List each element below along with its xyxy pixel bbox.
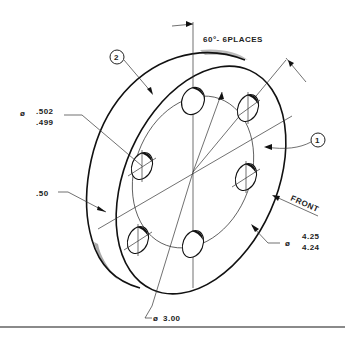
angle-arrow-right bbox=[288, 60, 294, 67]
bolt-circle-arrow bbox=[218, 92, 224, 100]
outer-dia-symbol: ø bbox=[285, 239, 290, 248]
bottom-rim-hatching bbox=[94, 242, 118, 280]
balloon-1-leader bbox=[266, 142, 311, 148]
angle-arrow-left bbox=[186, 21, 193, 27]
hole-dia-lower: .499 bbox=[36, 118, 54, 127]
hole bbox=[233, 91, 262, 124]
outer-dia-arrow bbox=[251, 224, 259, 232]
hole-dia-upper: .502 bbox=[36, 107, 54, 116]
outer-dia-upper: 4.25 bbox=[302, 232, 320, 241]
angle-note: 60°- 6PLACES bbox=[203, 35, 263, 44]
front-arrow-head bbox=[272, 195, 280, 201]
disk-back-outline bbox=[87, 53, 245, 288]
bolt-dia-leader bbox=[145, 306, 152, 318]
bottom-rule bbox=[0, 326, 345, 328]
hole bbox=[178, 227, 207, 260]
hole-dia-symbol: ø bbox=[20, 109, 25, 118]
hole bbox=[231, 160, 260, 193]
balloon-1-arrow bbox=[264, 144, 272, 150]
hole bbox=[178, 84, 209, 118]
bolt-dia-symbol: ø bbox=[153, 314, 158, 323]
outer-dia-lower: 4.24 bbox=[302, 243, 320, 252]
balloon-2-number: 2 bbox=[114, 53, 119, 62]
hole-dia-leader bbox=[64, 115, 142, 166]
front-label: FRONT bbox=[289, 194, 320, 214]
thickness-arrow bbox=[97, 206, 106, 212]
thickness-label: .50 bbox=[36, 189, 49, 198]
balloon-1-number: 1 bbox=[315, 136, 320, 145]
hole bbox=[123, 223, 152, 256]
technical-drawing: 60°- 6PLACES 2 ø .502 .499 .50 1 FRONT ø… bbox=[0, 0, 345, 339]
bolt-dia-value: 3.00 bbox=[163, 314, 181, 323]
horizontal-axis-line bbox=[98, 116, 292, 229]
